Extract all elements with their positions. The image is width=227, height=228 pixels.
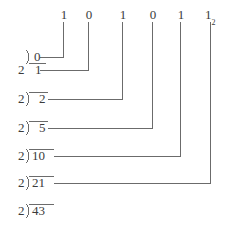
dividend-row-4: 10 (32, 149, 45, 162)
divisor-row-6-value: 2 (18, 203, 25, 218)
dividend-row-2: 2 (39, 92, 46, 105)
binary-digit-6-value: 1 (205, 7, 212, 22)
binary-digit-3-value: 1 (120, 7, 127, 22)
dividend-row-1: 1 (35, 63, 42, 76)
division-bracket-6 (27, 204, 30, 218)
divisor-row-3: 2 (18, 121, 25, 134)
connector-lines (0, 0, 227, 228)
dividend-row-6: 43 (32, 204, 45, 217)
dividend-row-1-value: 1 (35, 62, 42, 77)
base-subscript: 2 (212, 18, 216, 27)
division-bracket-1 (27, 50, 30, 64)
divisor-row-1: 2 (18, 63, 25, 76)
binary-digit-2: 0 (84, 8, 94, 21)
division-diagram: 1 0 1 0 1 12 0 2 1 2 2 2 5 2 10 2 (0, 0, 227, 228)
divisor-row-4: 2 (18, 149, 25, 162)
binary-digit-4: 0 (148, 8, 158, 21)
dividend-row-5: 21 (32, 176, 45, 189)
dividend-row-3: 5 (39, 121, 46, 134)
dividend-row-4-value: 10 (32, 148, 45, 163)
binary-digit-4-value: 0 (150, 7, 157, 22)
divisor-row-3-value: 2 (18, 120, 25, 135)
divisor-row-6: 2 (18, 204, 25, 217)
dividend-row-3-value: 5 (39, 120, 46, 135)
divisor-row-2: 2 (18, 92, 25, 105)
binary-digit-6: 12 (205, 8, 221, 27)
binary-digit-2-value: 0 (86, 7, 93, 22)
dividend-row-6-value: 43 (32, 203, 45, 218)
binary-digit-1-value: 1 (61, 7, 68, 22)
divisor-row-5-value: 2 (18, 175, 25, 190)
divisor-row-2-value: 2 (18, 91, 25, 106)
dividend-row-2-value: 2 (39, 91, 46, 106)
dividend-row-5-value: 21 (32, 175, 45, 190)
divisor-row-1-value: 2 (18, 62, 25, 77)
division-bracket-5 (27, 176, 30, 190)
binary-digit-1: 1 (59, 8, 69, 21)
binary-digit-5: 1 (176, 8, 186, 21)
binary-digit-5-value: 1 (178, 7, 185, 22)
division-bracket-3 (27, 121, 30, 135)
division-bracket-4 (27, 149, 30, 163)
binary-digit-3: 1 (118, 8, 128, 21)
divisor-row-5: 2 (18, 176, 25, 189)
division-bracket-2 (27, 92, 30, 106)
divisor-row-4-value: 2 (18, 148, 25, 163)
